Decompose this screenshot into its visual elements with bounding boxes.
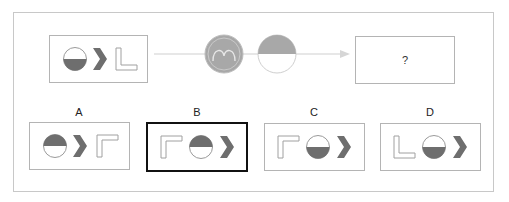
result-box: ?: [355, 36, 455, 84]
half-circle-top-filled-icon: [257, 34, 297, 74]
option-label-c: C: [304, 106, 324, 118]
chevron-right-icon: [219, 136, 235, 158]
transform-arrow: [154, 49, 354, 59]
corner-shape-icon: [160, 135, 184, 159]
half-circle-top-filled-icon: [188, 134, 214, 160]
l-shape-icon: [393, 135, 417, 159]
chevron-right-icon: [72, 135, 88, 157]
m-circle-icon: [204, 34, 244, 74]
sequence-box: [49, 35, 148, 83]
option-label-b: B: [187, 106, 207, 118]
corner-shape-icon: [96, 134, 120, 158]
l-shape-icon: [115, 47, 139, 71]
option-d[interactable]: [380, 123, 481, 171]
half-circle-bottom-filled-icon: [62, 46, 88, 72]
half-circle-bottom-filled-icon: [421, 134, 447, 160]
option-label-a: A: [69, 106, 89, 118]
chevron-right-icon: [336, 136, 352, 158]
chevron-right-icon: [92, 48, 108, 70]
half-circle-top-filled-icon: [42, 133, 68, 159]
option-a[interactable]: [29, 122, 130, 170]
corner-shape-icon: [277, 135, 301, 159]
option-label-d: D: [420, 106, 440, 118]
option-c[interactable]: [264, 123, 365, 171]
chevron-right-icon: [452, 136, 468, 158]
half-circle-bottom-filled-icon: [305, 134, 331, 160]
question-mark: ?: [402, 54, 408, 66]
option-b[interactable]: [146, 122, 248, 172]
